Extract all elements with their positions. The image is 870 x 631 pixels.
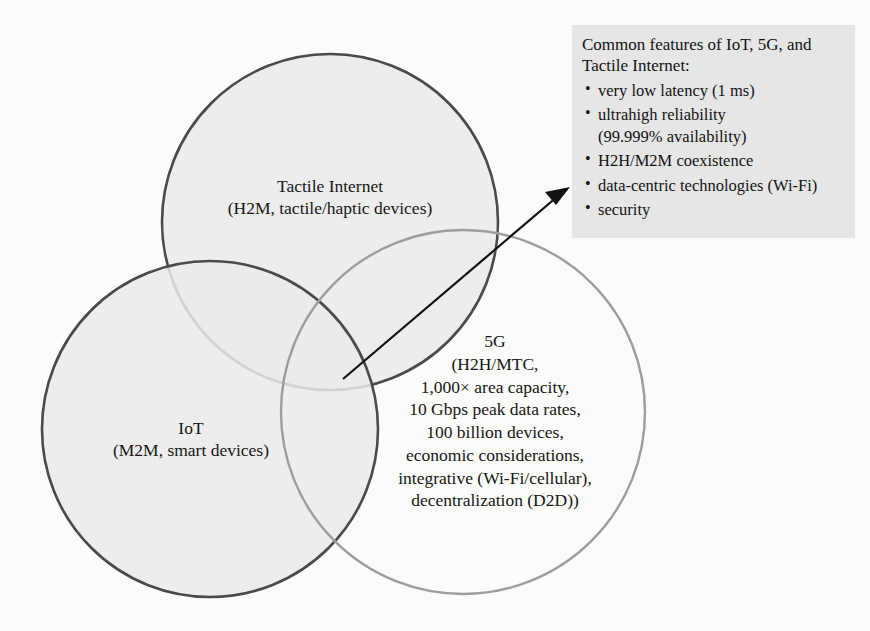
bullet-icon: • (585, 174, 591, 195)
bullet-icon: • (585, 79, 591, 100)
callout-box: Common features of IoT, 5G, and Tactile … (572, 25, 855, 238)
label-5g-line-6: integrative (Wi-Fi/cellular), (345, 467, 645, 490)
callout-list-item: • ultrahigh reliability (99.999% availab… (582, 104, 847, 147)
label-5g-line-5: economic considerations, (345, 444, 645, 467)
label-5g-line-1: (H2H/MTC, (345, 353, 645, 376)
label-5g-line-0: 5G (345, 330, 645, 353)
venn-diagram-figure: Tactile Internet (H2M, tactile/haptic de… (0, 0, 870, 631)
label-5g-line-7: decentralization (D2D)) (345, 489, 645, 512)
label-iot: IoT (M2M, smart devices) (60, 418, 322, 461)
callout-item-text: ultrahigh reliability (598, 105, 726, 124)
label-iot-line1: IoT (60, 418, 322, 440)
callout-feature-list: • very low latency (1 ms) • ultrahigh re… (582, 80, 847, 221)
callout-list-item: • data-centric technologies (Wi-Fi) (582, 175, 847, 196)
label-tactile-line2: (H2M, tactile/haptic devices) (175, 198, 485, 220)
callout-item-subtext: (99.999% availability) (598, 126, 847, 147)
label-5g-line-2: 1,000× area capacity, (345, 376, 645, 399)
callout-item-text: security (598, 200, 650, 219)
label-5g: 5G (H2H/MTC, 1,000× area capacity, 10 Gb… (345, 330, 645, 512)
label-5g-line-4: 100 billion devices, (345, 421, 645, 444)
label-tactile-line1: Tactile Internet (175, 176, 485, 198)
bullet-icon: • (585, 149, 591, 170)
label-tactile-internet: Tactile Internet (H2M, tactile/haptic de… (175, 176, 485, 219)
callout-title: Common features of IoT, 5G, and Tactile … (582, 34, 847, 77)
label-5g-line-3: 10 Gbps peak data rates, (345, 398, 645, 421)
callout-title-line1: Common features of IoT, 5G, (582, 35, 783, 54)
bullet-icon: • (585, 198, 591, 219)
callout-list-item: • very low latency (1 ms) (582, 80, 847, 101)
callout-item-text: very low latency (1 ms) (598, 81, 755, 100)
callout-list-item: • security (582, 199, 847, 220)
callout-list-item: • H2H/M2M coexistence (582, 150, 847, 171)
callout-item-text: data-centric technologies (Wi-Fi) (598, 176, 817, 195)
label-iot-line2: (M2M, smart devices) (60, 440, 322, 462)
callout-item-text: H2H/M2M coexistence (598, 151, 753, 170)
bullet-icon: • (585, 103, 591, 124)
